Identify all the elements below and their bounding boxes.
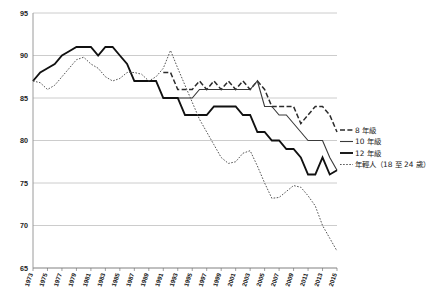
y-tick-label: 90 [20, 51, 28, 60]
y-tick-label: 75 [20, 179, 28, 188]
x-tick-label: 2013 [313, 272, 324, 288]
chart-legend: 8 年級10 年級12 年級年輕人（18 至 24 歲） [340, 126, 430, 170]
y-tick-label: 95 [20, 9, 28, 18]
x-tick-label: 1991 [153, 272, 164, 288]
x-tick-label: 2003 [240, 272, 251, 288]
x-tick-label: 1981 [81, 272, 92, 288]
series-lines-group [33, 47, 337, 251]
gridlines-group [33, 13, 337, 268]
x-tick-label: 1997 [197, 272, 208, 288]
y-tick-label: 85 [20, 94, 28, 103]
y-axis-labels-group: 65707580859095 [20, 9, 28, 273]
x-tick-label: 1979 [66, 272, 77, 288]
legend-label-1: 10 年級 [355, 137, 382, 146]
x-tick-label: 1985 [110, 272, 121, 288]
chart-container: 65707580859095 1973197519771979198119831… [0, 0, 445, 303]
line-chart: 65707580859095 1973197519771979198119831… [0, 0, 445, 303]
x-tick-label: 2005 [255, 272, 266, 288]
x-tick-label: 2015 [327, 272, 338, 288]
x-tick-label: 1999 [211, 272, 222, 288]
series-line-0 [163, 73, 337, 133]
series-line-3 [33, 50, 337, 251]
series-line-2 [33, 47, 337, 175]
x-tick-label: 2007 [269, 272, 280, 288]
y-tick-label: 80 [20, 136, 28, 145]
x-tick-label: 2011 [298, 272, 309, 287]
x-tick-label: 1973 [23, 272, 34, 288]
x-axis-labels-group: 1973197519771979198119831985198719891991… [23, 272, 338, 288]
x-tick-label: 1983 [95, 272, 106, 288]
legend-label-3: 年輕人（18 至 24 歲） [355, 160, 430, 169]
x-tick-label: 1995 [182, 272, 193, 288]
x-tick-label: 1977 [52, 272, 63, 288]
x-tick-label: 1975 [38, 272, 49, 288]
y-tick-label: 65 [20, 264, 28, 273]
x-tick-label: 1989 [139, 272, 150, 288]
x-tick-label: 2009 [284, 272, 295, 288]
y-tick-label: 70 [20, 221, 28, 230]
legend-label-2: 12 年級 [355, 149, 382, 158]
legend-label-0: 8 年級 [355, 126, 377, 135]
x-tick-label: 1987 [124, 272, 135, 288]
x-tick-label: 2001 [226, 272, 237, 288]
x-tick-label: 1993 [168, 272, 179, 288]
